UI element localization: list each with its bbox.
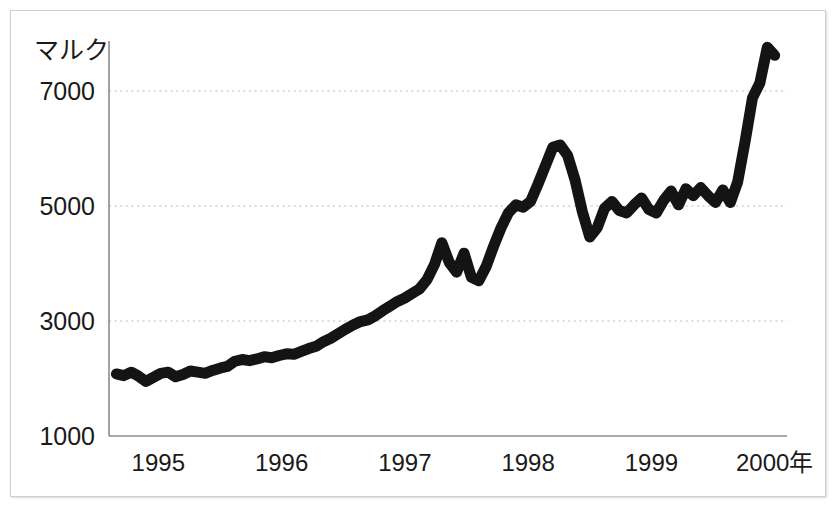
- line-chart-svg: 7000500030001000 19951996199719981999200…: [11, 11, 827, 498]
- y-tick-labels: 7000500030001000: [39, 77, 95, 450]
- y-tick-label-3000: 3000: [39, 307, 95, 335]
- x-tick-label-1995: 1995: [132, 449, 185, 476]
- y-axis-unit-label: マルク: [34, 36, 109, 65]
- x-tick-labels: 199519961997199819992000年: [132, 449, 814, 476]
- x-tick-label-1998: 1998: [501, 449, 554, 476]
- gridlines: [109, 91, 787, 321]
- chart-figure: 7000500030001000 19951996199719981999200…: [10, 10, 826, 497]
- y-tick-label-1000: 1000: [39, 422, 95, 450]
- data-series-line: [116, 47, 774, 381]
- x-tick-label-2000: 2000年: [736, 449, 813, 476]
- plot-surface: 7000500030001000 19951996199719981999200…: [11, 11, 827, 498]
- x-tick-label-1996: 1996: [255, 449, 308, 476]
- x-tick-label-1999: 1999: [625, 449, 678, 476]
- y-tick-label-5000: 5000: [39, 192, 95, 220]
- y-tick-label-7000: 7000: [39, 77, 95, 105]
- x-tick-label-1997: 1997: [378, 449, 431, 476]
